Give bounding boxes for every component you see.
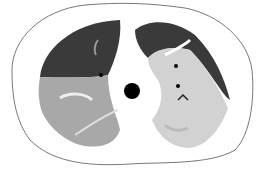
- ct-scan-illustration: [0, 0, 261, 177]
- ct-slice: [0, 0, 261, 177]
- airway-circle: [124, 83, 140, 99]
